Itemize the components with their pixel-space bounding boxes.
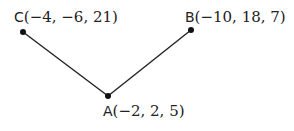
point-c-name: C bbox=[14, 9, 24, 25]
edge-c-a bbox=[23, 32, 108, 96]
point-a-label: A(−2, 2, 5) bbox=[103, 104, 185, 119]
point-a-coords: (−2, 2, 5) bbox=[113, 102, 185, 120]
point-c-label: C(−4, −6, 21) bbox=[14, 10, 118, 25]
point-b-coords: (−10, 18, 7) bbox=[195, 8, 286, 26]
vector-diagram: C(−4, −6, 21) B(−10, 18, 7) A(−2, 2, 5) bbox=[0, 0, 294, 131]
edge-a-b bbox=[108, 30, 191, 96]
point-a-name: A bbox=[103, 103, 113, 119]
point-a-dot bbox=[105, 93, 111, 99]
point-b-label: B(−10, 18, 7) bbox=[185, 10, 286, 25]
point-b-dot bbox=[188, 27, 194, 33]
point-c-dot bbox=[20, 29, 26, 35]
point-b-name: B bbox=[185, 9, 195, 25]
point-c-coords: (−4, −6, 21) bbox=[24, 8, 118, 26]
